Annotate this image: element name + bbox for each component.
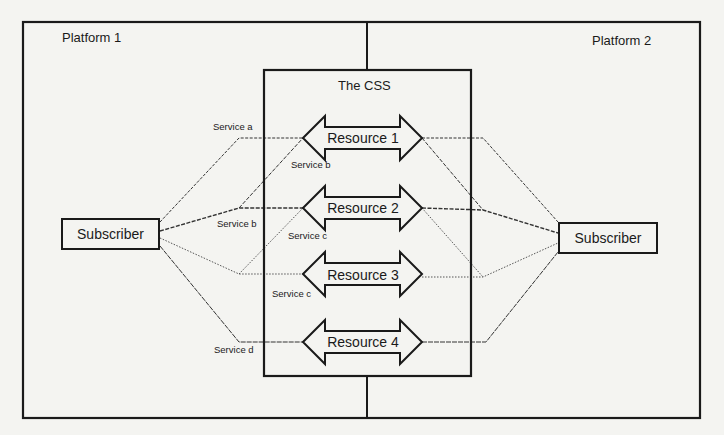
connection-service-a: [160, 138, 303, 222]
service-c-label-lower: Service c: [272, 289, 311, 299]
subscriber-right-label: Subscriber: [575, 230, 642, 246]
connection-r2-r3-branch: [422, 208, 483, 277]
connection-r3-subscriber: [422, 243, 558, 277]
connection-r2-subscriber: [422, 208, 558, 233]
connection-lines: [160, 138, 558, 342]
platform-1-label: Platform 1: [62, 31, 121, 44]
subscriber-right[interactable]: Subscriber: [558, 222, 658, 254]
resource-2-label: Resource 2: [313, 201, 413, 215]
service-b-label-lower: Service b: [217, 219, 257, 229]
resource-3-label: Resource 3: [313, 268, 413, 282]
service-b-label-upper: Service b: [291, 160, 331, 170]
connection-service-b-r1: [239, 138, 303, 208]
subscriber-left[interactable]: Subscriber: [61, 218, 160, 250]
connection-service-c-r3: [160, 238, 303, 274]
resource-4-label: Resource 4: [313, 335, 413, 349]
connection-r4-subscriber: [422, 252, 558, 342]
service-c-label-upper: Service c: [288, 231, 327, 241]
css-title: The CSS: [338, 79, 391, 92]
service-d-label: Service d: [214, 345, 254, 355]
connection-r1-subscriber: [422, 138, 558, 222]
resource-1-label: Resource 1: [313, 131, 413, 145]
service-a-label: Service a: [213, 122, 253, 132]
platform-2-label: Platform 2: [592, 34, 651, 47]
subscriber-left-label: Subscriber: [77, 226, 144, 242]
connection-r1-r2-branch: [422, 138, 483, 210]
